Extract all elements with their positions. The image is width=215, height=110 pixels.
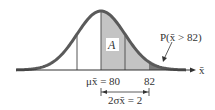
mean-label: μx̄ = 80 [86,76,120,87]
span-arrow-right-icon [143,90,148,94]
span-arrow-left-icon [102,90,107,94]
tail-pointer-arrow-icon [162,56,167,62]
area-a-label: A [108,39,115,51]
tail-pointer-line [164,42,172,59]
axis-arrow-icon [190,68,196,73]
value-82-label: 82 [144,76,155,87]
span-label: 2σx̄ = 2 [108,95,142,106]
tail-probability-label: P(x̄ > 82) [160,32,202,43]
axis-label: x̄ [199,65,205,76]
